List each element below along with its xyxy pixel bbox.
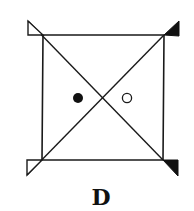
corner-flag-top-right-black-triangle xyxy=(164,21,179,36)
diagonal-top-left-to-bottom-right xyxy=(28,21,163,160)
figure-label: D xyxy=(0,185,194,209)
open-dot xyxy=(122,93,131,102)
corner-flag-top-left-white-triangle xyxy=(28,21,43,35)
filled-dot xyxy=(73,93,83,103)
corner-flag-bottom-right-black-triangle xyxy=(163,160,178,176)
corner-flag-bottom-left-white-triangle xyxy=(27,160,42,175)
diagonal-bottom-left-to-top-right xyxy=(27,35,164,175)
diagram-figure xyxy=(0,0,194,211)
